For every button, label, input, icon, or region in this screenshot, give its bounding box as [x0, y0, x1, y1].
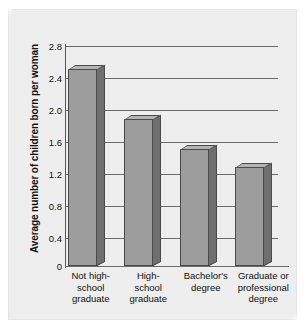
y-tick-label: 2.4 — [40, 74, 62, 83]
y-tick-label: 2.0 — [40, 106, 62, 115]
x-category-label-line: school — [121, 282, 177, 294]
figure-container: Average number of children born per woma… — [0, 0, 306, 329]
bar[interactable] — [235, 167, 264, 266]
x-category-label-line: degree — [178, 282, 234, 294]
x-category-label-line: Bachelor's — [178, 270, 234, 282]
y-axis-tick-labels: 2.8 2.4 2.0 1.6 1.2 0.8 0.4 0 — [38, 0, 62, 329]
x-category-label-line: school — [63, 282, 119, 294]
x-axis-category-labels: Not high-schoolgraduate High-schoolgradu… — [62, 270, 292, 320]
x-category-label-line: High- — [121, 270, 177, 282]
gridline — [66, 46, 278, 47]
plot-area — [66, 46, 278, 266]
x-category-label-line: degree — [236, 293, 292, 305]
bar-front-face — [68, 69, 97, 266]
x-axis-line — [65, 266, 289, 267]
bar-side-face — [97, 65, 105, 266]
y-tick-label: 2.8 — [40, 42, 62, 51]
bar-front-face — [235, 167, 264, 266]
bar-side-face — [153, 115, 161, 266]
bar-front-face — [180, 149, 209, 266]
bar[interactable] — [124, 119, 153, 266]
y-tick-label: 0 — [40, 262, 62, 271]
x-category-label-line: graduate — [121, 293, 177, 305]
x-category-label-line: Not high- — [63, 270, 119, 282]
bar[interactable] — [68, 69, 97, 266]
x-category-label: Not high-schoolgraduate — [62, 270, 120, 320]
y-tick-label: 1.2 — [40, 170, 62, 179]
x-category-label: Bachelor'sdegree — [177, 270, 235, 320]
y-tick-label: 1.6 — [40, 138, 62, 147]
y-tick-label: 0.8 — [40, 202, 62, 211]
x-category-label: High-schoolgraduate — [120, 270, 178, 320]
bar-side-face — [264, 163, 272, 266]
y-tick-label: 0.4 — [40, 234, 62, 243]
bar-side-face — [209, 145, 217, 266]
bar-front-face — [124, 119, 153, 266]
bar[interactable] — [180, 149, 209, 266]
x-category-label-line: graduate — [63, 293, 119, 305]
x-category-label: Graduate orprofessionaldegree — [235, 270, 293, 320]
x-category-label-line: professional — [236, 282, 292, 294]
x-category-label-line: Graduate or — [236, 270, 292, 282]
